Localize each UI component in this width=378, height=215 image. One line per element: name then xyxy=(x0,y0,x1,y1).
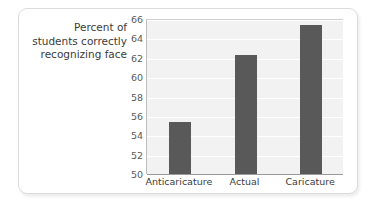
x-axis-category-label: Actual xyxy=(230,176,260,187)
y-axis-tick-label: 56 xyxy=(123,110,143,121)
y-axis-tick-label: 64 xyxy=(123,33,143,44)
chart-card: Percent of students correctly recognizin… xyxy=(18,8,358,194)
y-axis-tick-labels: 505254565860626466 xyxy=(123,9,143,195)
plot-area xyxy=(146,19,343,174)
x-axis-category-label: Caricature xyxy=(285,176,334,187)
y-axis-title-line-2: students correctly xyxy=(23,35,127,49)
y-axis-tick-label: 60 xyxy=(123,72,143,83)
y-axis-tick-label: 62 xyxy=(123,52,143,63)
y-axis-tick-label: 54 xyxy=(123,130,143,141)
y-axis-tick-label: 52 xyxy=(123,149,143,160)
x-axis-category-labels: AnticaricatureActualCaricature xyxy=(146,176,342,194)
y-axis-title: Percent of students correctly recognizin… xyxy=(23,21,127,62)
bar xyxy=(169,122,191,174)
plot-wrapper: 505254565860626466 AnticaricatureActualC… xyxy=(123,9,359,195)
y-axis-title-line-3: recognizing face xyxy=(23,48,127,62)
y-axis-title-line-1: Percent of xyxy=(23,21,127,35)
x-axis-category-label: Anticaricature xyxy=(145,176,212,187)
bar xyxy=(235,55,257,174)
bar xyxy=(300,25,322,174)
y-axis-tick-label: 66 xyxy=(123,14,143,25)
y-axis-tick-label: 58 xyxy=(123,91,143,102)
gridline xyxy=(147,20,343,21)
y-axis-tick-label: 50 xyxy=(123,169,143,180)
